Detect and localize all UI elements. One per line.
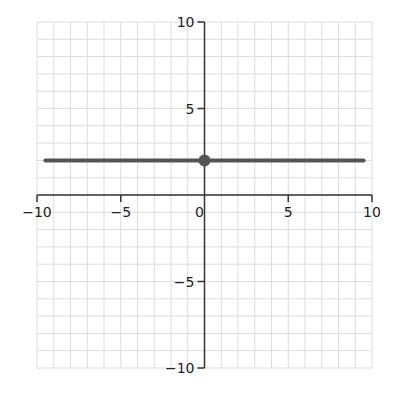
data-point [199,154,211,166]
y-tick-label: 5 [186,101,195,117]
plot-series [45,154,363,166]
x-tick-label: 5 [284,204,293,220]
x-tick-label: 0 [195,204,204,220]
y-tick-label: −10 [165,360,195,376]
x-tick-label: −5 [110,204,131,220]
coordinate-plane: −10−50510−10−5510 [0,0,396,395]
y-tick-label: 10 [177,14,195,30]
y-tick-label: −5 [174,274,195,290]
x-tick-label: −10 [22,204,52,220]
x-tick-label: 10 [363,204,381,220]
